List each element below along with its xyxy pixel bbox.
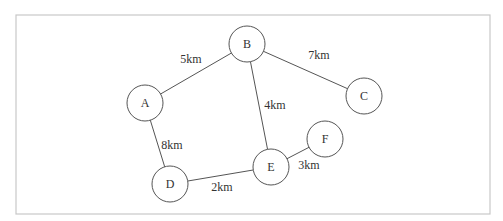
edge-label-a-b: 5km [180,52,202,66]
nodes-group: ABCDEF [127,26,382,202]
edge-label-b-e: 4km [264,98,286,112]
node-label: D [166,177,175,191]
node-label: F [322,132,329,146]
node-d: D [152,166,188,202]
node-f: F [307,121,343,157]
edge-label-e-f: 3km [298,158,320,172]
node-label: C [360,89,368,103]
node-b: B [229,26,265,62]
edge-label-a-d: 8km [161,138,183,152]
edge-label-d-e: 2km [211,180,233,194]
graph-diagram: 5km7km4km8km2km3km ABCDEF [0,0,503,221]
node-a: A [127,85,163,121]
node-label: B [243,37,251,51]
node-label: A [141,96,150,110]
node-label: E [267,160,274,174]
node-c: C [346,78,382,114]
edge-label-b-c: 7km [308,48,330,62]
node-e: E [253,149,289,185]
edge-b-c [247,44,364,96]
